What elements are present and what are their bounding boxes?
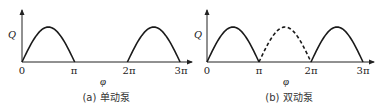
x-tick-label: π (256, 65, 263, 76)
x-tick-label: 2π (123, 65, 136, 76)
x-axis-label: φ (283, 75, 289, 87)
x-tick-label: 0 (19, 65, 25, 76)
flow-curve-stroke-1 (207, 27, 259, 62)
y-axis-label: Q (194, 28, 202, 40)
flow-curve-stroke-3 (311, 27, 363, 62)
panel-double-acting-pump: Q 0 π 2π 3π φ (b) 双动泵 (194, 10, 374, 103)
x-tick-label: π (71, 65, 78, 76)
x-tick-label: 3π (175, 65, 188, 76)
x-axis-label: φ (100, 75, 106, 87)
y-axis-label: Q (8, 28, 16, 40)
panel-caption: (b) 双动泵 (265, 92, 312, 103)
panel-single-acting-pump: Q 0 π 2π 3π φ (a) 单动泵 (8, 10, 192, 103)
x-tick-label: 3π (357, 65, 370, 76)
flow-curve-stroke-2 (259, 27, 311, 62)
x-tick-label: 0 (204, 65, 210, 76)
flow-curve-stroke-1 (22, 27, 75, 62)
flow-curve-stroke-2 (127, 27, 180, 62)
x-tick-label: 2π (305, 65, 318, 76)
pump-flow-figure: Q 0 π 2π 3π φ (a) 单动泵 Q 0 π 2π 3π φ (b) … (0, 0, 382, 108)
panel-caption: (a) 单动泵 (82, 92, 129, 103)
